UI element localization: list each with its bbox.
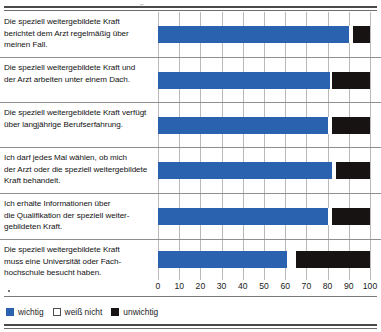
bottom-rule-thick: [4, 324, 377, 326]
x-tick-label: 60: [280, 280, 290, 292]
row-label-line: Die speziell weitergebildete Kraft: [4, 16, 154, 28]
row-label-line: der Arzt oder die speziell weitergebilde…: [4, 164, 154, 176]
row-label: Die speziell weitergebildete Kraftberich…: [4, 12, 154, 51]
bar-segment-wichtig: [158, 117, 328, 134]
bar-row: Die speziell weitergebildete Kraft verfü…: [0, 103, 381, 148]
row-label-line: Kraft behandelt.: [4, 175, 154, 187]
chart-legend: wichtigweiß nichtunwichtig: [6, 303, 158, 321]
row-label: Die speziell weitergebildete Kraftmuss e…: [4, 240, 154, 279]
gridline: [370, 240, 371, 280]
row-label-line: muss eine Universität oder Fach-: [4, 256, 154, 268]
row-label: Ich darf jedes Mal wählen, ob michder Ar…: [4, 148, 154, 187]
bar-segment-unwichtig: [336, 162, 370, 179]
x-tick-label: 90: [344, 280, 354, 292]
bar-row: Ich erhalte Informationen überdie Qualif…: [0, 194, 381, 240]
row-plot-area: [158, 194, 370, 239]
gridline: [370, 58, 371, 102]
top-rule-thin: [4, 10, 377, 11]
legend-swatch-unwichtig: [111, 308, 119, 316]
row-label-line: Die speziell weitergebildete Kraft verfü…: [4, 107, 154, 119]
chart-container: ⌐ Die speziell weitergebildete Kraftberi…: [0, 0, 381, 332]
stacked-bar: [158, 162, 370, 179]
stray-artifact: ⌐: [140, 1, 144, 8]
row-plot-area: [158, 58, 370, 102]
row-plot-area: [158, 103, 370, 147]
gridline: [370, 148, 371, 193]
x-tick-label: 50: [259, 280, 269, 292]
legend-label: weiß nicht: [65, 307, 103, 317]
stacked-bar: [158, 251, 370, 268]
top-rule-thick: [4, 6, 377, 8]
gridline: [370, 12, 371, 57]
row-label-line: Ich erhalte Informationen über: [4, 198, 154, 210]
bar-segment-unwichtig: [332, 117, 370, 134]
row-label: Die speziell weitergebildete Kraft verfü…: [4, 103, 154, 130]
row-label-line: Die speziell weitergebildete Kraft: [4, 244, 154, 256]
row-label-line: berichtet dem Arzt regelmäßig über: [4, 28, 154, 40]
bar-segment-weiss-nicht: [287, 251, 295, 268]
x-tick-label: 70: [302, 280, 312, 292]
x-tick-label: 20: [196, 280, 206, 292]
legend-swatch-wichtig: [6, 308, 14, 316]
bar-row: Die speziell weitergebildete Kraft undde…: [0, 58, 381, 103]
gridline: [370, 103, 371, 147]
bar-segment-unwichtig: [296, 251, 370, 268]
bar-segment-wichtig: [158, 208, 328, 225]
row-label-line: der Arzt arbeiten unter einem Dach.: [4, 74, 154, 86]
bar-rows: Die speziell weitergebildete Kraftberich…: [0, 12, 381, 280]
row-plot-area: [158, 12, 370, 57]
row-label-line: Ich darf jedes Mal wählen, ob mich: [4, 152, 154, 164]
row-label-line: meinen Fall.: [4, 39, 154, 51]
x-tick-label: 40: [238, 280, 248, 292]
bar-segment-unwichtig: [332, 208, 370, 225]
bottom-rule-thin: [4, 328, 377, 329]
x-tick-label: 30: [217, 280, 227, 292]
x-tick-label: 100: [363, 280, 377, 292]
row-plot-area: [158, 240, 370, 280]
bar-segment-unwichtig: [353, 26, 370, 43]
x-tick-label: 0: [156, 280, 161, 292]
stacked-bar: [158, 26, 370, 43]
gridline: [370, 194, 371, 239]
bar-row: Ich darf jedes Mal wählen, ob michder Ar…: [0, 148, 381, 194]
row-plot-area: [158, 148, 370, 193]
x-axis: 0102030405060708090100: [0, 280, 381, 296]
bar-row: Die speziell weitergebildete Kraftmuss e…: [0, 240, 381, 280]
stray-dot: [8, 290, 10, 292]
axis-baseline-rule: [4, 296, 377, 297]
bar-segment-unwichtig: [332, 72, 370, 89]
legend-item[interactable]: unwichtig: [111, 307, 158, 317]
legend-item[interactable]: wichtig: [6, 307, 44, 317]
legend-item[interactable]: weiß nicht: [53, 307, 103, 317]
plot-body: Die speziell weitergebildete Kraftberich…: [0, 12, 381, 280]
stacked-bar: [158, 208, 370, 225]
bar-segment-wichtig: [158, 26, 349, 43]
bar-segment-wichtig: [158, 162, 332, 179]
row-label-line: die Qualifikation der speziell weiter-: [4, 210, 154, 222]
x-tick-label: 80: [323, 280, 333, 292]
bar-segment-wichtig: [158, 72, 330, 89]
legend-label: wichtig: [18, 307, 44, 317]
stacked-bar: [158, 72, 370, 89]
row-label-line: gebildeten Kraft.: [4, 221, 154, 233]
bar-row: Die speziell weitergebildete Kraftberich…: [0, 12, 381, 58]
legend-label: unwichtig: [123, 307, 158, 317]
stacked-bar: [158, 117, 370, 134]
legend-swatch-weiss: [53, 308, 61, 316]
row-label: Die speziell weitergebildete Kraft undde…: [4, 58, 154, 85]
row-label-line: Die speziell weitergebildete Kraft und: [4, 62, 154, 74]
row-label-line: über langjährige Berufserfahrung.: [4, 119, 154, 131]
row-label: Ich erhalte Informationen überdie Qualif…: [4, 194, 154, 233]
bar-segment-wichtig: [158, 251, 287, 268]
row-label-line: hochschule besucht haben.: [4, 267, 154, 279]
x-tick-label: 10: [174, 280, 184, 292]
